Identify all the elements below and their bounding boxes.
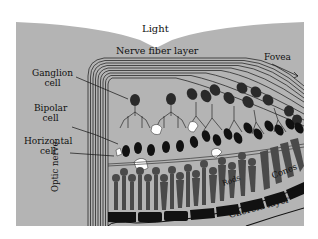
label-bipolar-line2: cell <box>34 113 67 123</box>
label-optic-nerve: Optic nerve <box>50 142 60 192</box>
label-bipolar-line1: Bipolar <box>34 103 67 113</box>
label-horizontal-cell: Horizontal cell <box>24 136 72 156</box>
label-fovea: Fovea <box>264 52 291 62</box>
ganglion-cells <box>130 80 302 125</box>
ganglion-dendrites <box>120 102 286 134</box>
label-ganglion-line1: Ganglion <box>32 68 73 78</box>
label-horizontal-line1: Horizontal <box>24 136 72 146</box>
label-nerve-fiber-layer: Nerve fiber layer <box>116 46 198 56</box>
label-horizontal-line2: cell <box>24 146 72 156</box>
label-ganglion-line2: cell <box>32 78 73 88</box>
label-ganglion-cell: Ganglion cell <box>32 68 73 88</box>
label-bipolar-cell: Bipolar cell <box>34 103 67 123</box>
diagram-panel: Light Nerve fiber layer Fovea Ganglion c… <box>16 16 304 226</box>
label-light: Light <box>142 24 169 34</box>
